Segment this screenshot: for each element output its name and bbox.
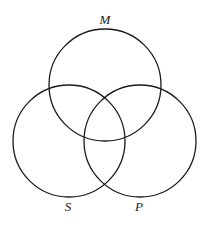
venn-diagram: M S P (0, 0, 218, 232)
label-p: P (134, 199, 143, 214)
label-m: M (99, 12, 112, 27)
label-s: S (65, 199, 72, 214)
